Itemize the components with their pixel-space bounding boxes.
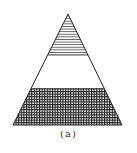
striped-region (0, 14, 137, 55)
grid-region (0, 88, 137, 125)
figure-caption: (a) (0, 128, 137, 139)
